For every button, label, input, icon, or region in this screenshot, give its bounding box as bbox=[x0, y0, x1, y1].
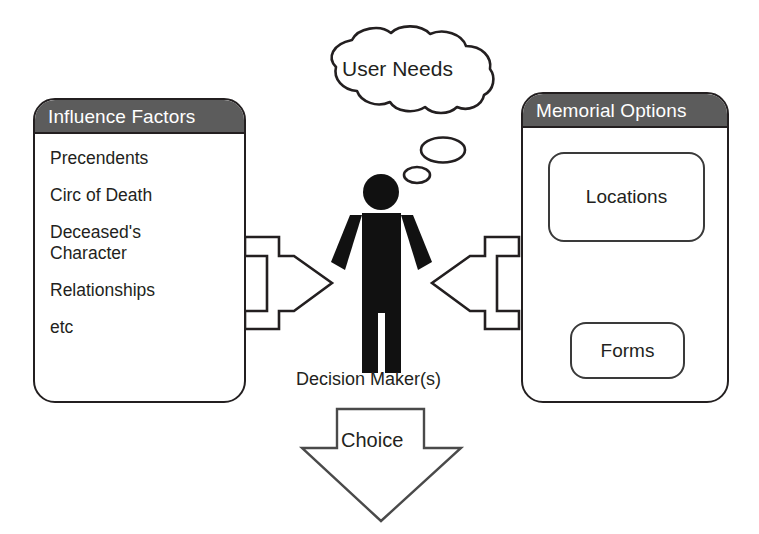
influence-factors-header: Influence Factors bbox=[35, 100, 244, 134]
thought-bubble-label: User Needs bbox=[342, 57, 453, 81]
diagram-canvas: Influence Factors Precendents Circ of De… bbox=[0, 0, 759, 534]
influence-factors-panel: Influence Factors Precendents Circ of De… bbox=[33, 98, 246, 403]
list-item: Deceased's Character bbox=[50, 222, 244, 264]
decision-maker-label: Decision Maker(s) bbox=[296, 369, 441, 390]
locations-label: Locations bbox=[586, 186, 667, 208]
list-item: Relationships bbox=[50, 280, 244, 301]
arrow-left-outline-icon bbox=[432, 237, 519, 329]
locations-box: Locations bbox=[548, 152, 705, 242]
thought-ellipse-large-icon bbox=[421, 138, 465, 163]
forms-box: Forms bbox=[570, 322, 685, 379]
list-item: Circ of Death bbox=[50, 185, 244, 206]
person-figure-icon bbox=[331, 174, 432, 373]
choice-label: Choice bbox=[341, 429, 403, 452]
memorial-options-header: Memorial Options bbox=[523, 94, 727, 128]
influence-factors-list: Precendents Circ of Death Deceased's Cha… bbox=[35, 134, 244, 338]
arrow-right-outline-icon bbox=[245, 237, 332, 329]
list-item: Precendents bbox=[50, 148, 244, 169]
forms-label: Forms bbox=[601, 340, 655, 362]
thought-ellipse-small-icon bbox=[404, 167, 430, 183]
list-item: etc bbox=[50, 317, 244, 338]
arrow-down-outline-icon bbox=[302, 409, 461, 521]
